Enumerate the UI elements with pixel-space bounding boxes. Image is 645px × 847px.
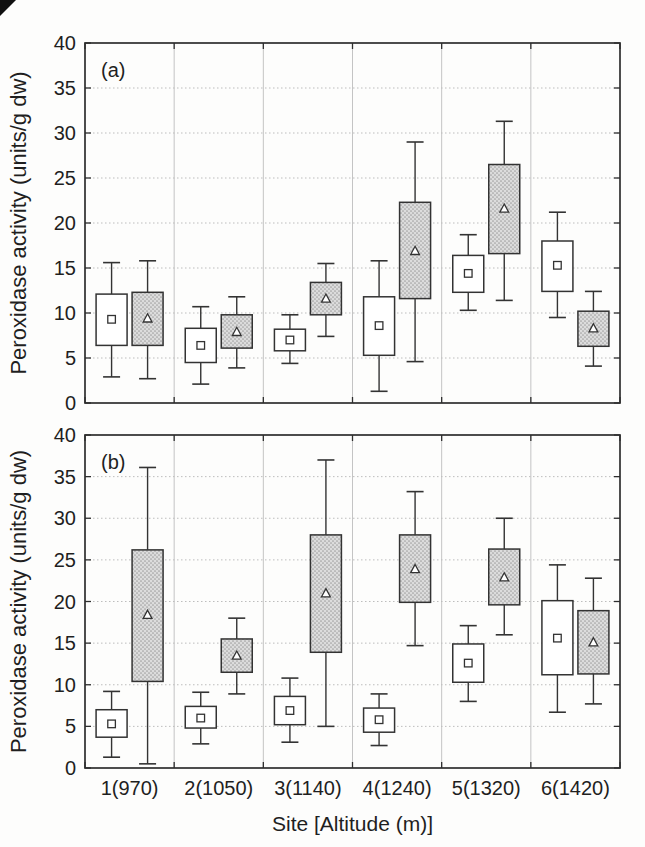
box-square-site6 xyxy=(542,212,573,317)
x-tick-label: 4(1240) xyxy=(363,777,432,799)
square-marker xyxy=(375,716,383,724)
x-axis-title: Site [Altitude (m)] xyxy=(272,812,433,835)
y-tick-label: 15 xyxy=(54,257,76,279)
y-tick-label: 30 xyxy=(54,122,76,144)
square-marker xyxy=(554,634,562,642)
box-triangle-site5 xyxy=(489,121,520,300)
x-tick-label: 6(1420) xyxy=(541,777,610,799)
box-triangle-site4 xyxy=(400,142,431,362)
square-marker xyxy=(197,342,205,350)
box-square-site2 xyxy=(185,307,216,384)
y-tick-label: 35 xyxy=(54,77,76,99)
box-square-site4 xyxy=(364,694,395,746)
box-triangle-site2 xyxy=(221,618,252,694)
x-tick-label: 2(1050) xyxy=(184,777,253,799)
panel-letter-label: (b) xyxy=(101,451,125,473)
panel-a: 0510152025303540(a)Peroxidase activity (… xyxy=(6,32,620,414)
box-triangle-site2 xyxy=(221,297,252,368)
y-tick-label: 30 xyxy=(54,507,76,529)
box-triangle-site6 xyxy=(578,578,609,704)
y-tick-label: 25 xyxy=(54,167,76,189)
y-tick-label: 35 xyxy=(54,466,76,488)
square-marker xyxy=(108,720,116,728)
box-square-site5 xyxy=(453,626,484,702)
x-tick-label: 1(970) xyxy=(101,777,159,799)
panel-letter-label: (a) xyxy=(101,59,125,81)
square-marker xyxy=(197,714,205,722)
y-tick-label: 25 xyxy=(54,549,76,571)
y-axis-title: Peroxidase activity (units/g dw) xyxy=(6,450,31,753)
boxplot-figure: 0510152025303540(a)Peroxidase activity (… xyxy=(0,0,645,847)
square-marker xyxy=(464,659,472,667)
box-square-site3 xyxy=(274,678,305,742)
square-marker xyxy=(464,270,472,278)
panel-b: 0510152025303540(b)Peroxidase activity (… xyxy=(6,424,620,835)
box-triangle-site4 xyxy=(400,492,431,646)
x-tick-label: 5(1320) xyxy=(452,777,521,799)
square-marker xyxy=(554,262,562,270)
y-axis-title: Peroxidase activity (units/g dw) xyxy=(6,71,31,374)
box-square-site2 xyxy=(185,692,216,744)
box-triangle-site1 xyxy=(132,467,163,763)
box-triangle-site1 xyxy=(132,261,163,379)
y-tick-label: 20 xyxy=(54,591,76,613)
y-tick-label: 40 xyxy=(54,424,76,446)
y-tick-label: 5 xyxy=(65,347,76,369)
square-marker xyxy=(286,336,294,344)
box-square-site4 xyxy=(364,261,395,392)
box-square-site3 xyxy=(274,315,305,364)
boxplot-figure-svg: 0510152025303540(a)Peroxidase activity (… xyxy=(0,0,645,847)
y-tick-label: 5 xyxy=(65,715,76,737)
box-triangle-site3 xyxy=(310,264,341,337)
box-square-site1 xyxy=(96,263,127,377)
square-marker xyxy=(108,316,116,324)
box-triangle-site6 xyxy=(578,291,609,366)
y-tick-label: 20 xyxy=(54,212,76,234)
box-square-site5 xyxy=(453,235,484,311)
y-tick-label: 10 xyxy=(54,302,76,324)
square-marker xyxy=(375,322,383,330)
box-triangle-site3 xyxy=(310,460,341,726)
scan-artifact-corner xyxy=(0,0,16,16)
box-square-site6 xyxy=(542,565,573,712)
square-marker xyxy=(286,707,294,715)
y-tick-label: 0 xyxy=(65,392,76,414)
y-tick-label: 15 xyxy=(54,632,76,654)
box-triangle-site5 xyxy=(489,518,520,635)
y-tick-label: 10 xyxy=(54,674,76,696)
box-square-site1 xyxy=(96,691,127,757)
y-tick-label: 0 xyxy=(65,757,76,779)
x-tick-label: 3(1140) xyxy=(274,777,341,799)
y-tick-label: 40 xyxy=(54,32,76,54)
